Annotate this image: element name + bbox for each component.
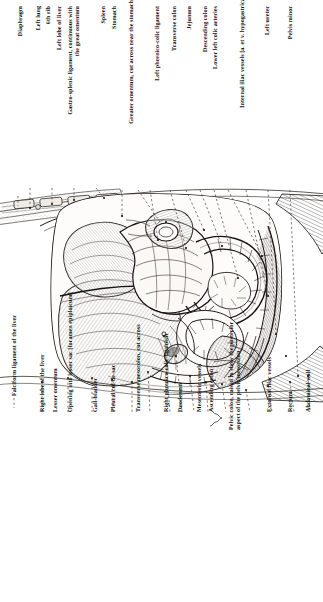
label-pleural-cul-de-sac: Pleural cul-de-sac [111, 222, 118, 412]
label-lower-left-colic-arteries: Lower left colic arteries [213, 6, 220, 186]
label-jejunum: Jejunum [187, 6, 194, 186]
anatomy-illustration [0, 186, 323, 408]
label-gall-bladder: Gall-bladder [93, 222, 100, 412]
label-opening-into-lesser-sac: Opening into lesser sac [foramen epiploi… [68, 216, 75, 412]
label-gastro-splenic-ligament: Gastro-splenic ligament, continuous with… [68, 6, 81, 186]
label-rectum: Rectum [288, 222, 295, 412]
label-diaphragm: Diaphragm [18, 6, 25, 196]
label-6th-rib: 6th rib [46, 6, 53, 186]
label-transverse-mesocolon: Transverse mesocolon, cut across [136, 222, 143, 412]
label-greater-omentum: Greater omentum, cut across near the sto… [129, 0, 136, 186]
label-left-phrenico-colic-ligament: Left phrenico-colic ligament [155, 6, 162, 186]
label-right-phrenico-colic-ligament: Right phrenico-colic ligament [164, 222, 171, 412]
label-left-lobe-of-liver: Left lobe of liver [57, 6, 64, 186]
label-right-lobe-of-the-liver: Right lobe of the liver [40, 222, 47, 412]
label-lesser-omentum: Lesser omentum [53, 222, 60, 412]
label-stomach: Stomach [112, 6, 119, 186]
label-external-iliac-vessels: External iliac vessels [267, 222, 274, 412]
label-internal-iliac-vessels: Internal iliac vessels [a. et v. hypogas… [240, 0, 247, 186]
label-falciform-ligament: Falciform ligament of the liver [12, 206, 19, 396]
label-descending-colon: Descending colon [203, 6, 210, 186]
label-abdominal-wall: Abdominal wall [306, 222, 313, 412]
label-pelvic-colon: Pelvic colon, raised to show the posteri… [229, 250, 242, 430]
label-ascending-colon: Ascending colon [209, 222, 216, 412]
label-left-lung: Left lung [36, 6, 43, 186]
label-transverse-colon: Transverse colon [172, 6, 179, 186]
label-pelvis-minor: Pelvis minor [288, 6, 295, 186]
label-spleen: Spleen [101, 6, 108, 186]
label-duodenum: Duodenum [178, 222, 185, 412]
label-mesenteric-vessels: Mesenteric vessels [197, 222, 204, 412]
label-left-ureter: Left ureter [265, 6, 272, 186]
anatomical-plate: Diaphragm Left lung 6th rib Left lobe of… [0, 0, 323, 602]
